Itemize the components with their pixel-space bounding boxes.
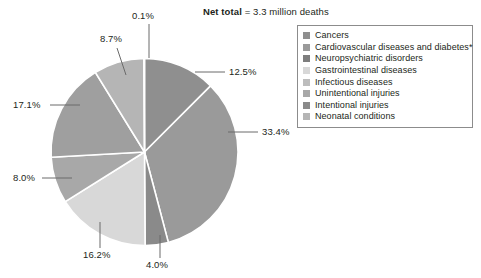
pie-slice[interactable] — [144, 58, 145, 152]
legend-item-label: Neonatal conditions — [315, 111, 395, 122]
legend-item[interactable]: Neonatal conditions — [303, 111, 467, 123]
legend-item[interactable]: Gastrointestinal diseases — [303, 65, 467, 77]
pct-label-intentional: 4.0% — [146, 259, 168, 270]
legend-item[interactable]: Cancers — [303, 30, 467, 42]
legend-item-label: Infectious diseases — [315, 77, 393, 88]
pie-chart-figure: Net total = 3.3 million deaths 0.1% 8.7%… — [0, 0, 481, 278]
pct-label-unintentional: 8.0% — [13, 172, 35, 183]
legend-swatch-icon — [303, 102, 310, 109]
legend: CancersCardiovascular diseases and diabe… — [297, 25, 473, 128]
legend-swatch-icon — [303, 44, 310, 51]
pct-label-gastrointestinal: 16.2% — [83, 249, 110, 260]
legend-item[interactable]: Intentional injuries — [303, 100, 467, 112]
legend-item-label: Intentional injuries — [315, 100, 389, 111]
legend-item-label: Gastrointestinal diseases — [315, 65, 417, 76]
legend-swatch-icon — [303, 55, 310, 62]
legend-item[interactable]: Neuropsychiatric disorders — [303, 53, 467, 65]
legend-item[interactable]: Unintentional injuries — [303, 88, 467, 100]
pct-label-infectious: 8.7% — [100, 33, 122, 44]
pie-slices — [51, 58, 238, 245]
legend-swatch-icon — [303, 79, 310, 86]
pct-label-neuropsychiatric: 17.1% — [13, 99, 40, 110]
legend-swatch-icon — [303, 90, 310, 97]
legend-item[interactable]: Infectious diseases — [303, 76, 467, 88]
legend-swatch-icon — [303, 32, 310, 39]
pct-label-cancers: 12.5% — [229, 66, 256, 77]
legend-item-label: Neuropsychiatric disorders — [315, 53, 423, 64]
legend-item-label: Cardiovascular diseases and diabetes* — [315, 42, 472, 53]
legend-item-label: Unintentional injuries — [315, 88, 400, 99]
legend-item-label: Cancers — [315, 30, 349, 41]
legend-item[interactable]: Cardiovascular diseases and diabetes* — [303, 42, 467, 54]
pct-label-neonatal: 0.1% — [132, 10, 154, 21]
legend-swatch-icon — [303, 67, 310, 74]
legend-swatch-icon — [303, 113, 310, 120]
pct-label-cardiovascular: 33.4% — [262, 126, 289, 137]
